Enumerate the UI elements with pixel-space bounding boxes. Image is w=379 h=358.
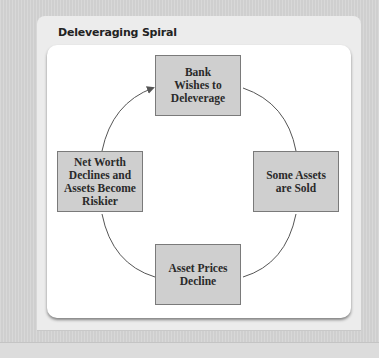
node-line: Bank [171, 66, 225, 79]
node-net-worth-declines: Net Worth Declines and Assets Become Ris… [57, 151, 143, 212]
node-bank-wishes-to-deleverage: Bank Wishes to Deleverage [155, 55, 241, 116]
node-line: Asset Prices [168, 262, 227, 275]
node-line: Riskier [64, 195, 136, 208]
edge-bottom-to-left [102, 214, 155, 277]
node-line: Assets Become [64, 182, 136, 195]
node-line: Wishes to [171, 79, 225, 92]
node-line: Net Worth [64, 156, 136, 169]
node-line: Declines and [64, 169, 136, 182]
node-line: are Sold [266, 182, 326, 195]
node-asset-prices-decline: Asset Prices Decline [155, 244, 241, 305]
edge-top-to-right [243, 88, 296, 151]
edge-left-to-top [102, 88, 153, 151]
node-line: Some Assets [266, 169, 326, 182]
node-line: Decline [168, 275, 227, 288]
edge-right-to-bottom [243, 214, 296, 277]
node-some-assets-are-sold: Some Assets are Sold [253, 151, 339, 212]
node-line: Deleverage [171, 92, 225, 105]
